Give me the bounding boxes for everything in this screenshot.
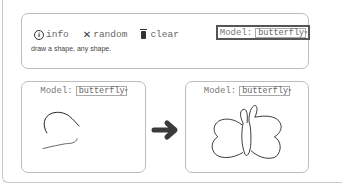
model-label: Model: (220, 28, 252, 38)
clear-label: clear (150, 29, 179, 40)
model-selector: Model: butterfly ▼ (218, 27, 308, 38)
info-label: info (46, 29, 69, 40)
generated-canvas (186, 82, 308, 172)
toolbar: i info ✕ random clear (34, 29, 193, 40)
input-sketch-panel: Model: butterfly ▼ (21, 81, 146, 173)
random-button[interactable]: ✕ random (83, 29, 128, 40)
trash-icon (141, 31, 146, 39)
random-label: random (93, 29, 127, 40)
info-button[interactable]: i info (34, 29, 69, 40)
shuffle-x-icon: ✕ (83, 29, 91, 40)
info-circle-icon: i (34, 30, 44, 40)
drawing-canvas[interactable] (22, 82, 145, 172)
clear-button[interactable]: clear (141, 29, 179, 40)
model-selector-highlight: Model: butterfly ▼ (216, 25, 310, 40)
chevron-down-icon: ▼ (304, 30, 307, 36)
output-sketch-panel: Model: butterfly ▼ (185, 81, 309, 173)
instruction-text: draw a shape, any shape. (31, 45, 111, 52)
control-panel: i info ✕ random clear draw a shape, any … (21, 13, 309, 69)
right-arrow-icon (151, 119, 181, 141)
model-dropdown[interactable]: butterfly ▼ (255, 28, 306, 38)
model-dropdown-value: butterfly (258, 28, 304, 38)
